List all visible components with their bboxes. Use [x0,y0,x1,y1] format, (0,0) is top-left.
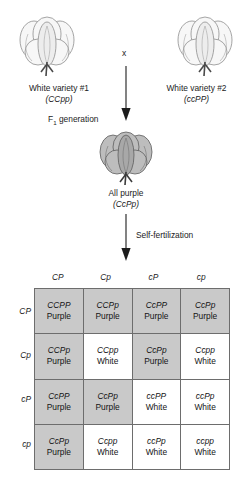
punnett-cell[interactable]: CcPP Purple [35,379,84,424]
punnett-cell-genotype: ccPp [133,436,181,447]
punnett-cell[interactable]: ccpp White [181,424,230,469]
punnett-cell-genotype: CCpp [84,345,132,356]
punnett-cell[interactable]: CCPp Purple [35,334,84,379]
punnett-cell-genotype: CcPP [133,300,181,311]
punnett-cell-phenotype: Purple [35,447,83,458]
punnett-cell-genotype: Ccpp [181,345,229,356]
cotton-boll-white-icon-right [174,14,236,80]
punnett-cell-phenotype: Purple [133,311,181,322]
table-row: CCPP Purple CCPp Purple CcPP Purple CcPp… [35,289,230,334]
punnett-cell[interactable]: CcPP Purple [132,289,181,334]
cross-symbol: x [122,48,126,58]
punnett-cell[interactable]: CcPp Purple [181,289,230,334]
punnett-cell-phenotype: Purple [84,402,132,413]
punnett-row-header-1: Cp [5,350,31,360]
punnett-col-header-2: cP [130,272,178,282]
punnett-row-header-3: cp [5,439,31,449]
table-row: CCPp Purple CCpp White CcPp Purple Ccpp … [35,334,230,379]
parent-1-genotype: (CCpp) [0,94,118,104]
punnett-col-header-3: cp [177,272,225,282]
punnett-col-header-0: CP [34,272,82,282]
punnett-cell-phenotype: White [84,447,132,458]
punnett-cell[interactable]: CCpp White [83,334,132,379]
punnett-row-header-0: CP [5,306,31,316]
punnett-cell-genotype: CcPp [35,436,83,447]
punnett-square: CCPP Purple CCPp Purple CcPP Purple CcPp… [34,288,230,470]
f1-phenotype-label: All purple [76,188,176,198]
punnett-cell[interactable]: CCPP Purple [35,289,84,334]
punnett-cell-phenotype: Purple [35,356,83,367]
cotton-boll-purple-icon [97,128,155,188]
punnett-cell-phenotype: Purple [133,356,181,367]
punnett-cell-phenotype: Purple [84,311,132,322]
parent-2-genotype: (ccPP) [142,94,251,104]
table-row: CcPp Purple Ccpp White ccPp White ccpp W… [35,424,230,469]
punnett-cell-phenotype: White [133,402,181,413]
punnett-cell[interactable]: ccPp White [181,379,230,424]
punnett-cell-genotype: CCPp [35,345,83,356]
punnett-cell-phenotype: White [181,402,229,413]
arrow-to-f1 [119,66,133,122]
punnett-cell[interactable]: Ccpp White [181,334,230,379]
punnett-col-header-1: Cp [82,272,130,282]
f1-label-tail: generation [57,114,99,124]
diagram-canvas: White variety #1 (CCpp) [0,0,251,487]
cotton-boll-white-icon-left [16,14,78,80]
arrow-to-punnett [119,214,133,262]
punnett-cell-genotype: ccPP [133,391,181,402]
punnett-cell[interactable]: ccPp White [132,424,181,469]
punnett-cell-genotype: ccPp [181,391,229,402]
punnett-cell-phenotype: Purple [35,311,83,322]
punnett-cell-genotype: CCPP [35,300,83,311]
punnett-cell-genotype: CCPp [84,300,132,311]
parent-1-label: White variety #1 [0,83,118,93]
punnett-cell-phenotype: White [181,447,229,458]
punnett-cell[interactable]: ccPP White [132,379,181,424]
punnett-cell[interactable]: CcPp Purple [132,334,181,379]
punnett-cell[interactable]: Ccpp White [83,424,132,469]
punnett-cell-genotype: CcPp [133,345,181,356]
parent-2-label: White variety #2 [142,83,251,93]
punnett-cell-phenotype: White [181,356,229,367]
f1-generation-label: F1 generation [48,114,99,128]
punnett-cell-genotype: ccpp [181,436,229,447]
punnett-cell-genotype: CcPp [181,300,229,311]
punnett-cell[interactable]: CcPp Purple [35,424,84,469]
punnett-cell-genotype: Ccpp [84,436,132,447]
punnett-cell[interactable]: CCPp Purple [83,289,132,334]
f1-genotype-label: (CcPp) [76,199,176,209]
punnett-cell[interactable]: CcPp Purple [83,379,132,424]
punnett-cell-phenotype: White [133,447,181,458]
table-row: CcPP Purple CcPp Purple ccPP White ccPp … [35,379,230,424]
punnett-row-header-2: cP [5,394,31,404]
punnett-cell-phenotype: Purple [181,311,229,322]
punnett-cell-phenotype: White [84,356,132,367]
punnett-cell-genotype: CcPp [84,391,132,402]
self-fertilization-label: Self-fertilization [136,230,193,240]
punnett-cell-phenotype: Purple [35,402,83,413]
punnett-cell-genotype: CcPP [35,391,83,402]
